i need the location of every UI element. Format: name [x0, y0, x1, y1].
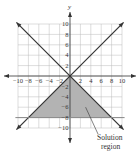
annotation-text-line1: Solution	[97, 133, 123, 142]
x-tick-label: −4	[46, 77, 54, 84]
x-tick-label: −10	[13, 77, 23, 84]
x-axis-right-arrow-icon	[131, 74, 136, 78]
x-tick-label: −8	[25, 77, 32, 84]
x-tick-label: 4	[89, 77, 93, 84]
y-tick-label: 4	[65, 51, 69, 58]
x-axis-left-arrow-icon	[4, 74, 9, 78]
x-tick-label: 10	[119, 77, 126, 84]
y-tick-label: 10	[62, 20, 69, 27]
y-axis-up-arrow-icon	[68, 12, 72, 17]
x-tick-label: 6	[100, 77, 104, 84]
y-tick-label: −4	[62, 93, 70, 100]
chart: −10−8−6−4−2246810108642−2−4−6−8−10 y Sol…	[0, 0, 140, 154]
y-tick-label: 8	[65, 31, 68, 38]
x-tick-label: 2	[79, 77, 82, 84]
y-tick-label: −8	[62, 114, 69, 121]
annotation-text-line2: region	[101, 142, 120, 151]
y-tick-label: −2	[62, 83, 69, 90]
x-tick-label: 8	[110, 77, 113, 84]
axes	[4, 12, 136, 143]
y-tick-label: 6	[65, 41, 69, 48]
y-axis-down-arrow-icon	[68, 138, 72, 143]
y-tick-label: −6	[62, 103, 70, 110]
y-tick-label: 2	[65, 62, 68, 69]
y-axis-label: y	[67, 3, 72, 11]
y-tick-label: −10	[58, 124, 68, 131]
x-tick-label: −6	[35, 77, 43, 84]
